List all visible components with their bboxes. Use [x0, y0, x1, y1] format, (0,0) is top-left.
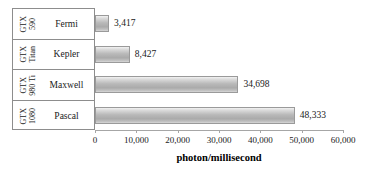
- x-tick-label: 20,000: [165, 135, 190, 146]
- x-tick-label: 0: [93, 135, 98, 146]
- x-tick-mark: [260, 130, 261, 133]
- x-tick-label: 10,000: [124, 135, 149, 146]
- architecture-label-fermi: Fermi: [43, 19, 94, 30]
- bar-fermi: [95, 15, 109, 32]
- x-tick-label: 30,000: [207, 135, 232, 146]
- bar-maxwell: [95, 76, 238, 93]
- gpu-name-line1: GTX: [19, 77, 28, 93]
- x-tick-mark: [343, 130, 344, 133]
- bar-pascal: [95, 107, 295, 124]
- gpu-name-line2: Titan: [28, 46, 37, 63]
- x-tick-label: 50,000: [289, 135, 314, 146]
- gpu-name-pascal: GTX 1080: [13, 101, 43, 131]
- gpu-name-line1: GTX: [19, 108, 28, 124]
- gpu-name-kepler: GTX Titan: [13, 40, 43, 69]
- x-tick-mark: [219, 130, 220, 133]
- category-row-maxwell: GTX 980 Ti Maxwell: [13, 70, 94, 101]
- category-label-table: GTX 590 Fermi GTX Titan Kepler GTX 980 T…: [12, 8, 95, 130]
- bar-value-pascal: 48,333: [300, 110, 326, 121]
- x-tick-label: 40,000: [248, 135, 273, 146]
- gpu-name-maxwell: GTX 980 Ti: [13, 70, 43, 100]
- gpu-name-fermi: GTX 590: [13, 9, 43, 39]
- architecture-label-kepler: Kepler: [43, 49, 94, 60]
- bar-value-kepler: 8,427: [135, 49, 156, 60]
- x-tick-mark: [178, 130, 179, 133]
- architecture-label-maxwell: Maxwell: [43, 80, 94, 91]
- category-row-pascal: GTX 1080 Pascal: [13, 101, 94, 131]
- bar-chart: GTX 590 Fermi GTX Titan Kepler GTX 980 T…: [0, 0, 365, 176]
- gpu-name-line1: GTX: [19, 46, 28, 62]
- gpu-name-line2: 590: [28, 18, 37, 30]
- category-row-fermi: GTX 590 Fermi: [13, 9, 94, 40]
- x-tick-mark: [95, 130, 96, 133]
- plot-area: 3,417 8,427 34,698 48,333: [95, 8, 343, 130]
- architecture-label-pascal: Pascal: [43, 111, 94, 122]
- x-axis-title: photon/millisecond: [95, 151, 343, 164]
- gpu-name-line2: 1080: [28, 108, 37, 124]
- x-tick-mark: [136, 130, 137, 133]
- bar-value-fermi: 3,417: [114, 18, 135, 29]
- x-tick-label: 60,000: [331, 135, 356, 146]
- gpu-name-line2: 980 Ti: [28, 75, 37, 96]
- x-tick-mark: [302, 130, 303, 133]
- bar-value-maxwell: 34,698: [243, 79, 269, 90]
- bar-kepler: [95, 46, 130, 63]
- gpu-name-line1: GTX: [19, 16, 28, 32]
- category-row-kepler: GTX Titan Kepler: [13, 40, 94, 70]
